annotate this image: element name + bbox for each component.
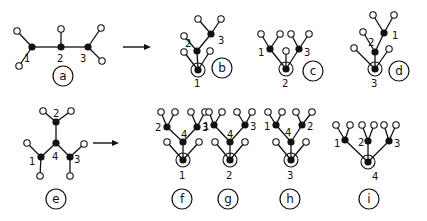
- leaf-node: [283, 48, 289, 54]
- vertex-label: 2: [53, 108, 59, 119]
- vertex-3: [287, 156, 294, 163]
- panel-label: h: [286, 192, 294, 206]
- vertex-2: [298, 121, 305, 128]
- vertex-label: 3: [287, 170, 293, 181]
- vertex-2: [371, 48, 378, 55]
- vertex-label: 1: [392, 30, 398, 41]
- leaf-node: [393, 122, 399, 128]
- leaf-node: [196, 139, 202, 145]
- vertex-1: [266, 45, 273, 52]
- vertex-1: [380, 29, 387, 36]
- leaf-node: [371, 122, 377, 128]
- internal-edge: [368, 141, 389, 162]
- panel-label: b: [218, 61, 226, 75]
- internal-edge: [345, 140, 368, 162]
- leaf-node: [249, 109, 255, 115]
- vertex-3: [193, 123, 200, 130]
- leaf-node: [277, 31, 283, 37]
- leaf-node: [16, 63, 22, 69]
- vertex-3: [295, 45, 302, 52]
- vertex-3: [241, 121, 248, 128]
- leaf-node: [359, 122, 365, 128]
- leaf-node: [279, 109, 285, 115]
- vertex-label: 2: [155, 122, 161, 133]
- panel-f: 1423f: [155, 109, 208, 209]
- leaf-node: [58, 26, 64, 32]
- leaf-node: [370, 12, 376, 18]
- leaf-node: [218, 16, 224, 22]
- arrowhead-icon: [144, 44, 151, 50]
- leaf-node: [381, 122, 387, 128]
- vertex-label: 1: [194, 78, 200, 89]
- panel-label: c: [310, 64, 317, 78]
- vertex-label: 3: [74, 154, 80, 165]
- leaf-node: [303, 139, 309, 145]
- leaf-node: [40, 108, 46, 114]
- leaf-node: [234, 109, 240, 115]
- vertex-label: 4: [181, 129, 187, 140]
- leaf-node: [172, 109, 178, 115]
- vertex-label: 1: [264, 121, 270, 132]
- vertex-2: [163, 123, 170, 130]
- panel-e: 4213e: [24, 108, 87, 209]
- tree-diagram: 123a123b213c321d4213e1423f2413g3412h4123…: [0, 0, 427, 221]
- vertex-2: [52, 118, 59, 125]
- vertex-2: [193, 47, 200, 54]
- vertex-3: [207, 30, 214, 37]
- leaf-node: [293, 109, 299, 115]
- vertex-3: [385, 137, 392, 144]
- leaf-node: [347, 122, 353, 128]
- leaf-node: [309, 109, 315, 115]
- leaf-node: [258, 31, 264, 37]
- vertex-1: [194, 66, 201, 73]
- leaf-node: [158, 109, 164, 115]
- vertex-label: 3: [80, 53, 86, 64]
- vertex-label: 4: [227, 129, 233, 140]
- vertex-1: [272, 121, 279, 128]
- panel-i: 4123i: [333, 122, 401, 209]
- leaf-node: [265, 109, 271, 115]
- panels: 123a123b213c321d4213e1423f2413g3412h4123…: [14, 12, 409, 209]
- panel-b: 123b: [181, 16, 232, 89]
- leaf-node: [68, 108, 74, 114]
- vertex-label: 1: [203, 121, 209, 132]
- vertex-label: 1: [179, 170, 185, 181]
- panel-c: 213c: [258, 31, 323, 89]
- leaf-node: [195, 16, 201, 22]
- vertex-3: [66, 153, 73, 160]
- leaf-node: [242, 139, 248, 145]
- panel-g: 2413g: [203, 109, 256, 209]
- vertex-label: 2: [368, 37, 374, 48]
- vertex-label: 1: [258, 47, 264, 58]
- vertex-4: [52, 139, 59, 146]
- vertex-label: 1: [334, 138, 340, 149]
- vertex-label: 3: [250, 121, 256, 132]
- vertex-label: 4: [285, 127, 291, 138]
- panel-label: e: [52, 192, 59, 206]
- vertex-label: 2: [226, 170, 232, 181]
- leaf-node: [306, 31, 312, 37]
- vertex-label: 3: [394, 138, 400, 149]
- vertex-label: 3: [304, 47, 310, 58]
- vertex-label: 3: [218, 35, 224, 46]
- panel-h: 3412h: [264, 109, 315, 209]
- vertex-2: [282, 65, 289, 72]
- leaf-node: [14, 28, 20, 34]
- vertex-1: [341, 136, 348, 143]
- leaf-node: [333, 122, 339, 128]
- vertex-2: [226, 156, 233, 163]
- vertex-label: 1: [29, 156, 35, 167]
- vertex-4: [364, 158, 371, 165]
- vertex-1: [179, 156, 186, 163]
- vertex-label: 2: [358, 137, 364, 148]
- vertex-3: [371, 65, 378, 72]
- panel-label: g: [224, 192, 232, 206]
- arrow-e: [93, 140, 119, 146]
- leaf-node: [386, 46, 392, 52]
- panel-a: 123a: [14, 25, 105, 86]
- leaf-node: [207, 48, 213, 54]
- leaf-node: [67, 173, 73, 179]
- vertex-label: 2: [57, 53, 63, 64]
- vertex-label: 2: [282, 78, 288, 89]
- vertex-label: 4: [372, 171, 378, 182]
